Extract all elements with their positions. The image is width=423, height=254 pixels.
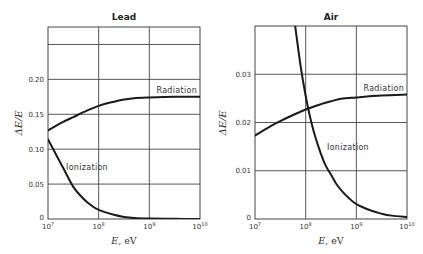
lead-x-axis-var: E [110, 235, 118, 246]
lead-gridlines [48, 27, 200, 219]
air-panel: Air 00.010.020.03 1071081091010 ΔE/E E, … [217, 12, 415, 246]
air-x-tick-label: 108 [300, 221, 312, 231]
air-ionization-label: Ionization [327, 143, 369, 152]
air-x-tick-label: 107 [249, 221, 261, 231]
lead-y-tick-label: 0.15 [28, 111, 44, 119]
tick-base: 10 [249, 223, 258, 231]
air-x-axis-label: E, eV [317, 235, 344, 246]
lead-y-tick-label: 0.20 [28, 76, 44, 84]
air-y-tick-label: 0.01 [235, 167, 251, 175]
lead-x-axis-unit: eV [124, 235, 137, 246]
lead-y-axis-label: ΔE/E [13, 110, 24, 137]
air-y-tick-label: 0.02 [235, 119, 251, 127]
tick-exponent: 8 [309, 221, 312, 227]
tick-exponent: 9 [359, 221, 362, 227]
lead-plot-frame [48, 27, 200, 219]
lead-radiation-curve [48, 97, 200, 131]
air-x-ticks: 1071081091010 [249, 221, 415, 231]
lead-y-tick-label: 0.05 [28, 181, 44, 189]
air-y-tick-label: 0 [247, 214, 251, 222]
lead-y-ticks: 00.050.100.150.20 [28, 76, 44, 222]
tick-base: 10 [143, 223, 152, 231]
tick-exponent: 10 [408, 221, 414, 227]
lead-x-tick-label: 1010 [192, 221, 207, 231]
lead-y-tick-label: 0 [40, 214, 44, 222]
lead-ionization-curve [48, 139, 200, 219]
air-x-axis-var: E [317, 235, 325, 246]
lead-x-tick-label: 109 [143, 221, 155, 231]
tick-base: 10 [42, 223, 51, 231]
lead-panel: Lead 00.050.100.150.20 1071081091010 ΔE/… [13, 12, 208, 246]
air-x-axis-unit: eV [331, 235, 344, 246]
tick-exponent: 7 [258, 221, 261, 227]
lead-curves [48, 97, 200, 219]
tick-base: 10 [93, 223, 102, 231]
air-title: Air [324, 12, 339, 22]
tick-base: 10 [350, 223, 359, 231]
tick-exponent: 9 [152, 221, 155, 227]
tick-base: 10 [399, 223, 408, 231]
air-y-ticks: 00.010.020.03 [235, 71, 251, 222]
tick-exponent: 10 [201, 221, 207, 227]
air-radiation-curve [255, 95, 407, 136]
tick-base: 10 [192, 223, 201, 231]
air-x-tick-label: 1010 [399, 221, 414, 231]
air-y-axis-label: ΔE/E [217, 110, 228, 137]
air-curves [255, 26, 407, 217]
figure: Lead 00.050.100.150.20 1071081091010 ΔE/… [0, 0, 423, 254]
lead-x-tick-label: 107 [42, 221, 54, 231]
lead-x-axis-label: E, eV [110, 235, 137, 246]
air-y-tick-label: 0.03 [235, 71, 251, 79]
tick-base: 10 [300, 223, 309, 231]
lead-radiation-label: Radiation [156, 86, 197, 95]
lead-x-ticks: 1071081091010 [42, 221, 208, 231]
lead-x-tick-label: 108 [93, 221, 105, 231]
air-ionization-curve [295, 26, 407, 217]
air-x-tick-label: 109 [350, 221, 362, 231]
lead-y-tick-label: 0.10 [28, 146, 44, 154]
tick-exponent: 7 [51, 221, 54, 227]
lead-ionization-label: Ionization [66, 163, 108, 172]
tick-exponent: 8 [102, 221, 105, 227]
lead-title: Lead [112, 12, 136, 22]
air-radiation-label: Radiation [363, 84, 404, 93]
